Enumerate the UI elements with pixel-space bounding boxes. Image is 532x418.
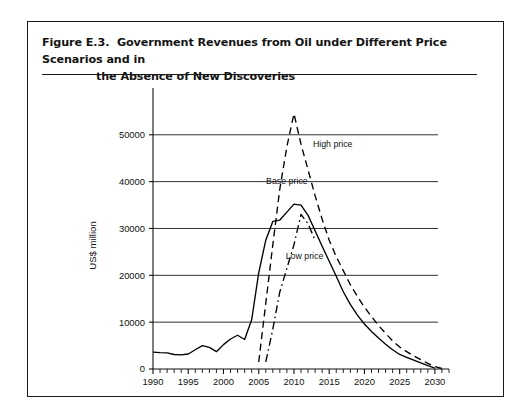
- x-axis-tick-label: 2010: [284, 376, 305, 387]
- y-axis-tick-label: 0: [140, 363, 145, 374]
- y-axis-tick-label: 50000: [119, 129, 145, 140]
- series-annotation-low-price: Low price: [286, 251, 324, 261]
- x-axis-tick-label: 2015: [319, 376, 340, 387]
- y-axis-title: US$ million: [87, 221, 98, 270]
- x-axis-tick-label: 2005: [248, 376, 269, 387]
- y-axis-tick-label: 30000: [119, 223, 145, 234]
- x-axis-tick-label: 2020: [354, 376, 375, 387]
- x-axis-tick-label: 1990: [143, 376, 164, 387]
- y-axis-tick-label: 20000: [119, 270, 145, 281]
- x-axis-tick-label: 1995: [178, 376, 199, 387]
- x-axis-tick-label: 2000: [213, 376, 234, 387]
- series-line-low-price: [266, 214, 315, 362]
- chart-plot-area: 0100002000030000400005000019901995200020…: [28, 22, 505, 398]
- series-line-high-price: [259, 114, 442, 369]
- y-axis-tick-label: 40000: [119, 176, 145, 187]
- x-axis-tick-label: 2025: [389, 376, 410, 387]
- series-annotation-high-price: High price: [313, 139, 353, 149]
- y-axis-tick-label: 10000: [119, 317, 145, 328]
- series-annotation-base-price: Base price: [266, 176, 308, 186]
- figure-container: Figure E.3. Government Revenues from Oil…: [27, 21, 504, 397]
- x-axis-tick-label: 2030: [424, 376, 445, 387]
- revenue-line-chart: 0100002000030000400005000019901995200020…: [28, 22, 505, 398]
